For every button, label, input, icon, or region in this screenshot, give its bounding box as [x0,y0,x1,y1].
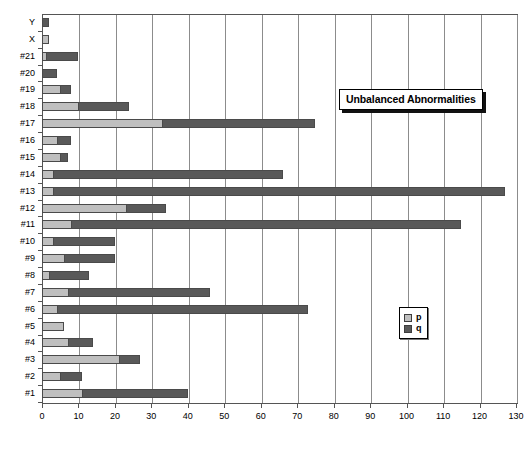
legend-swatch-p [404,314,412,322]
bar-segment-q [162,119,315,128]
y-axis-label: Y [29,18,35,27]
bar-segment-q [49,271,89,280]
legend-label-q: q [416,324,422,333]
bar-segment-q [60,85,71,94]
bar-n20 [42,69,57,78]
bar-segment-p [42,288,68,297]
y-axis-tick [38,284,42,285]
y-axis-tick [38,267,42,268]
x-axis-label: 70 [292,411,302,421]
bar-segment-q [53,170,283,179]
chart-container: YX#21#20#19#18#17#16#15#14#13#12#11#10#9… [0,0,527,451]
x-axis-tick [78,404,79,408]
x-axis-tick [516,404,517,408]
x-axis-label: 50 [219,411,229,421]
y-axis-tick [38,351,42,352]
bar-segment-q [46,52,79,61]
legend-label-p: p [416,313,422,322]
y-axis-label: #18 [20,102,35,111]
bar-segment-q [53,187,505,196]
y-axis-tick [38,200,42,201]
bar-n8 [42,271,89,280]
bar-segment-p [42,220,71,229]
bar-segment-q [57,136,72,145]
bar-n3 [42,355,140,364]
bar-rows [42,14,518,404]
y-axis-tick [38,368,42,369]
y-axis-label: #16 [20,136,35,145]
bar-n12 [42,204,166,213]
y-axis-label: #9 [25,254,35,263]
bar-segment-p [42,136,57,145]
x-axis-tick [334,404,335,408]
y-axis-tick [38,385,42,386]
bar-segment-p [42,338,68,347]
y-axis-label: #15 [20,153,35,162]
x-axis-tick [115,404,116,408]
bar-n18 [42,102,129,111]
y-axis-tick [38,335,42,336]
y-axis-tick [38,233,42,234]
y-axis-tick [38,318,42,319]
bar-segment-q [42,69,57,78]
bar-segment-p [42,153,60,162]
y-axis-tick [38,149,42,150]
bar-segment-p [42,85,60,94]
bar-segment-p [42,372,60,381]
y-axis-label: X [29,35,35,44]
bar-n7 [42,288,210,297]
chart-title: Unbalanced Abnormalities [339,89,483,110]
y-axis-label: #8 [25,271,35,280]
bar-n15 [42,153,68,162]
bar-segment-q [71,220,461,229]
y-axis-label: #20 [20,69,35,78]
y-axis-tick [38,301,42,302]
y-axis-tick [38,98,42,99]
x-axis-tick [297,404,298,408]
y-axis-label: #7 [25,288,35,297]
bar-X [42,35,49,44]
bar-segment-p [42,271,49,280]
x-axis-label: 90 [365,411,375,421]
x-axis-label: 30 [146,411,156,421]
y-axis: YX#21#20#19#18#17#16#15#14#13#12#11#10#9… [0,14,42,404]
bar-n13 [42,187,505,196]
y-axis-label: #1 [25,389,35,398]
bar-n11 [42,220,461,229]
y-axis-tick [38,81,42,82]
bar-segment-q [64,254,115,263]
legend-item-p: p [404,313,422,322]
bar-n9 [42,254,115,263]
x-axis-label: 60 [256,411,266,421]
bar-segment-p [42,305,57,314]
x-axis-tick [42,404,43,408]
x-axis-tick [151,404,152,408]
legend-swatch-q [404,325,412,333]
y-axis-tick [38,31,42,32]
x-axis-label: 80 [329,411,339,421]
y-axis-label: #19 [20,85,35,94]
bar-segment-q [126,204,166,213]
bar-n5 [42,322,64,331]
x-axis-tick [261,404,262,408]
bar-segment-q [68,338,94,347]
x-axis-tick [480,404,481,408]
bar-segment-q [119,355,141,364]
bar-segment-q [53,237,115,246]
bar-n14 [42,170,283,179]
bar-segment-q [68,288,210,297]
y-axis-label: #4 [25,338,35,347]
bar-n6 [42,305,308,314]
y-axis-label: #13 [20,187,35,196]
y-axis-label: #10 [20,237,35,246]
y-axis-label: #11 [21,220,35,229]
bar-segment-q [57,305,309,314]
bar-segment-p [42,254,64,263]
x-axis-tick [224,404,225,408]
bar-segment-q [82,389,188,398]
y-axis-tick [38,402,42,403]
y-axis-tick [38,250,42,251]
bar-segment-p [42,389,82,398]
y-axis-label: #3 [25,355,35,364]
bar-segment-p [42,35,49,44]
